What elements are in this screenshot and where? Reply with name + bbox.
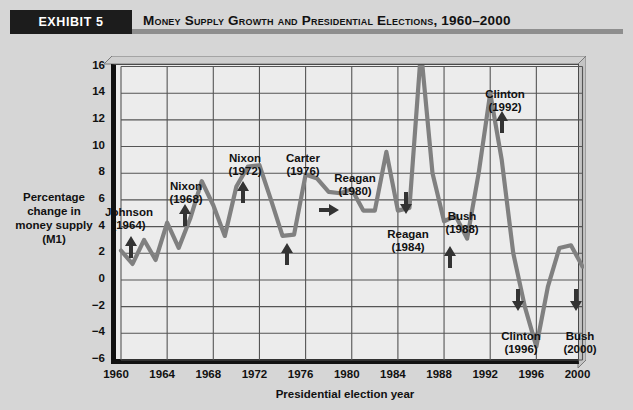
annotation-arrow-up [174,202,196,228]
annotation-president: Reagan [334,172,376,184]
x-tick-label: 1992 [463,368,507,380]
y-tick-label: −2 [71,299,105,311]
annotation-president: Clinton [501,330,541,342]
annotation-president: Nixon [170,180,202,192]
arrow-glyph [237,181,249,203]
x-axis-title: Presidential election year [180,388,510,400]
y-tick-label: 2 [71,245,105,257]
chart-container: Percentage change in money supply (M1) P… [0,0,633,410]
y-tick-label: 8 [71,165,105,177]
annotation-president: Bush [448,210,477,222]
y-tick-label: 14 [71,85,105,97]
arrow-glyph [319,204,339,216]
y-tick-label: −6 [71,352,105,364]
y-tick-label: 0 [71,272,105,284]
x-tick-label: 1996 [509,368,553,380]
annotation-label: Reagan(1980) [315,172,395,198]
arrow-glyph [570,289,582,311]
annotation-arrow-down [395,190,417,216]
annotation-label: Bush(2000) [540,330,620,356]
annotation-arrow-up [491,109,513,135]
annotation-president: Bush [566,330,595,342]
annotation-arrow-up [439,244,461,270]
y-tick-label: 10 [71,139,105,151]
y-axis-title-line2: change in [27,205,81,217]
annotation-president: Johnson [105,206,153,218]
annotation-president: Clinton [485,88,525,100]
arrow-glyph [444,246,456,268]
annotation-president: Nixon [229,152,261,164]
y-tick-label: 16 [71,59,105,71]
annotation-label: Bush(1988) [422,210,502,236]
x-tick-label: 1980 [325,368,369,380]
x-tick-label: 1988 [417,368,461,380]
annotation-arrow-down [507,287,529,313]
arrow-glyph [281,243,293,265]
arrow-glyph [179,204,191,226]
y-tick-label: −4 [71,325,105,337]
y-tick-label: 12 [71,112,105,124]
x-tick-label: 1972 [232,368,276,380]
annotation-year: (1984) [368,241,448,254]
annotation-arrow-up [120,234,142,260]
annotation-year: (1988) [422,223,502,236]
x-tick-label: 1968 [186,368,230,380]
x-tick-label: 1964 [140,368,184,380]
x-tick-label: 1976 [279,368,323,380]
arrow-glyph [125,236,137,258]
annotation-year: (2000) [540,343,620,356]
arrow-glyph [496,111,508,133]
arrow-glyph [512,289,524,311]
x-tick-label: 1984 [371,368,415,380]
annotation-arrow-up [276,241,298,267]
annotation-year: (1964) [89,219,169,232]
annotation-label: Johnson(1964) [89,206,169,232]
arrow-glyph [400,192,412,214]
y-axis-title-line4: (M1) [42,233,66,245]
x-tick-label: 2000 [556,368,600,380]
annotation-arrow-down [565,287,587,313]
annotation-president: Carter [286,152,320,164]
y-tick-label: 6 [71,192,105,204]
x-tick-label: 1960 [94,368,138,380]
annotation-arrow-right [318,197,340,223]
annotation-arrow-up [232,179,254,205]
